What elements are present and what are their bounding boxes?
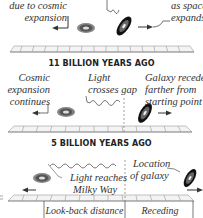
space-grid-1	[10, 46, 194, 52]
caption-right-1: as space expands	[171, 0, 203, 24]
light-wave-2	[86, 96, 120, 106]
milky-way-galaxy-icon	[77, 23, 95, 33]
arrow-right-icon	[187, 188, 203, 193]
caption-line: starting point	[145, 96, 203, 108]
caption-right-2: Galaxy recedes farther from starting poi…	[145, 72, 203, 108]
caption-center-2: Light crosses gap	[88, 72, 148, 96]
caption-line: Galaxy recedes	[145, 72, 203, 84]
caption-line: Light	[88, 72, 148, 84]
caption-line: due to cosmic	[0, 0, 67, 12]
edge-tick-marks	[0, 196, 3, 199]
light-wave-1	[107, 0, 119, 14]
caption-line: continues	[0, 96, 50, 108]
caption-line: Cosmic	[0, 72, 50, 84]
caption-light-reaches: Light reaches Milky Way	[70, 172, 130, 196]
caption-line: expansion	[0, 12, 67, 24]
look-back-distance-label: Look-back distance	[44, 205, 125, 217]
distant-galaxy-icon	[181, 167, 199, 189]
caption-line: expands	[171, 12, 203, 24]
distant-galaxy-icon	[114, 14, 135, 38]
time-label-5-billion: 5 BILLION YEARS AGO	[0, 139, 203, 148]
light-wave-3	[50, 164, 116, 168]
caption-line: farther from	[145, 84, 203, 96]
receding-distance-label: Receding distance	[125, 205, 195, 218]
caption-left-1: due to cosmic expansion	[0, 0, 67, 24]
caption-line: expansion	[0, 84, 50, 96]
milky-way-galaxy-icon	[33, 173, 51, 183]
arrow-right-icon	[138, 21, 170, 30]
caption-line: of galaxy	[130, 170, 180, 182]
caption-line: Milky Way	[70, 184, 130, 196]
caption-line: Location	[130, 158, 180, 170]
milky-way-galaxy-icon	[57, 107, 75, 117]
time-label-11-billion: 11 BILLION YEARS AGO	[0, 59, 203, 68]
caption-line: Light reaches	[70, 172, 130, 184]
arrow-left-icon	[22, 188, 36, 193]
space-grid-2	[8, 126, 192, 132]
caption-left-2: Cosmic expansion continues	[0, 72, 50, 108]
caption-line: as space	[171, 0, 203, 12]
caption-location: Location of galaxy	[130, 158, 180, 182]
arrow-right-icon	[158, 111, 172, 116]
caption-line: crosses gap	[88, 84, 148, 96]
